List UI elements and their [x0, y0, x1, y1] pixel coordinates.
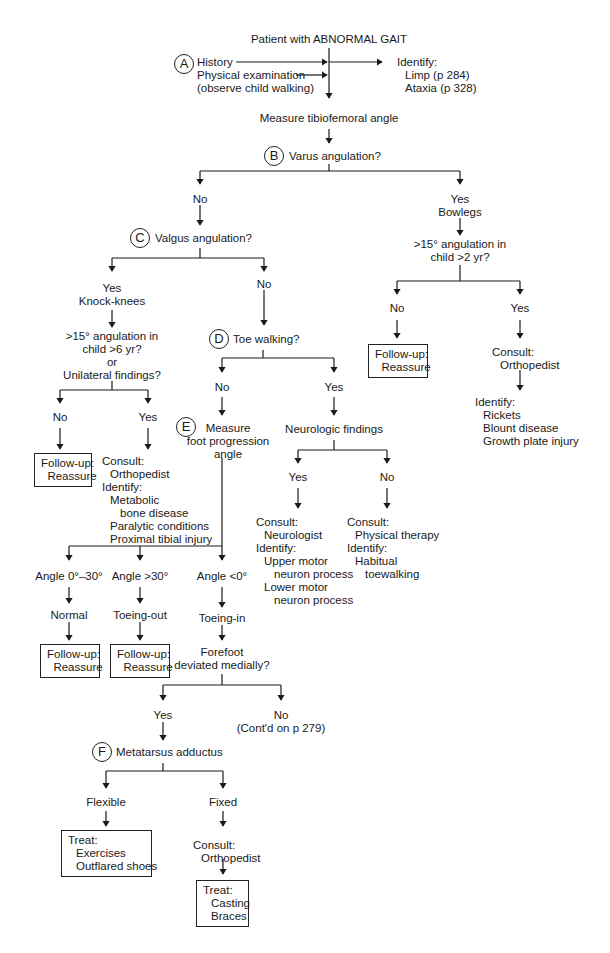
toe-walking-yes: Yes	[314, 381, 354, 394]
neuro-no-consult: Consult:Physical therapyIdentify:Habitua…	[347, 516, 439, 581]
step-a-text: HistoryPhysical examination(observe chil…	[197, 56, 314, 95]
neuro-yes: Yes	[278, 471, 318, 484]
measure-tibiofemoral-angle: Measure tibiofemoral angle	[229, 112, 429, 125]
angle-over-30: Angle >30°	[105, 570, 175, 583]
result-toeing-out: Toeing-out	[100, 609, 180, 622]
valgus-no: No	[244, 278, 284, 291]
identify-gait-causes: Identify:Limp (p 284)Ataxia (p 328)	[397, 56, 477, 95]
toe-walking-question: Toe walking?	[233, 333, 299, 346]
angle-under-0: Angle <0°	[187, 570, 257, 583]
step-marker-a: A	[174, 54, 194, 74]
toe-walking-no: No	[202, 381, 242, 394]
knock-knees-yes: Yes	[128, 411, 168, 424]
bowlegs-followup-box: Follow-up: Reassure	[368, 344, 428, 378]
bowlegs-identify: Identify:RicketsBlount diseaseGrowth pla…	[475, 396, 579, 448]
flowchart-title: Patient with ABNORMAL GAIT	[229, 33, 429, 46]
forefoot-yes: Yes	[143, 709, 183, 722]
bowlegs-no: No	[377, 302, 417, 315]
varus-question: Varus angulation?	[289, 150, 381, 163]
bowlegs-yes: Yes	[500, 302, 540, 315]
fixed-label: Fixed	[198, 796, 248, 809]
step-marker-d: D	[209, 329, 229, 349]
knock-knees-no: No	[40, 411, 80, 424]
varus-yes-bowlegs: YesBowlegs	[420, 193, 500, 219]
angle-0-30: Angle 0°–30°	[29, 570, 109, 583]
fixed-consult: Consult:Orthopedist	[193, 839, 260, 865]
neurologic-findings: Neurologic findings	[274, 423, 394, 436]
metatarsus-adductus: Metatarsus adductus	[116, 746, 223, 759]
neuro-yes-consult: Consult:NeurologistIdentify:Upper motorn…	[256, 516, 353, 607]
valgus-yes-knock-knees: YesKnock-knees	[67, 282, 157, 308]
flexible-label: Flexible	[76, 796, 136, 809]
step-marker-f: F	[92, 742, 112, 762]
bowlegs-question: >15° angulation inchild >2 yr?	[400, 238, 520, 264]
knock-knees-consult: Consult:OrthopedistIdentify:Metabolicbon…	[102, 455, 212, 546]
step-marker-c: C	[130, 228, 150, 248]
bowlegs-consult: Consult:Orthopedist	[492, 346, 559, 372]
varus-no: No	[180, 193, 220, 206]
knock-knees-followup-box: Follow-up: Reassure	[34, 453, 92, 487]
neuro-no: No	[367, 471, 407, 484]
forefoot-question: Forefootdeviated medially?	[172, 646, 272, 672]
measure-foot-progression: Measurefoot progressionangle	[180, 422, 276, 461]
result-normal: Normal	[29, 609, 109, 622]
flexible-treat-box: Treat:ExercisesOutflared shoes	[61, 830, 152, 877]
toeing-out-followup-box: Follow-up: Reassure	[110, 644, 170, 678]
valgus-question: Valgus angulation?	[155, 232, 252, 245]
knock-knees-question: >15° angulation inchild >6 yr?orUnilater…	[52, 330, 172, 382]
normal-followup-box: Follow-up: Reassure	[40, 644, 100, 678]
step-marker-b: B	[264, 146, 284, 166]
result-toeing-in: Toeing-in	[182, 612, 262, 625]
forefoot-no: No(Cont'd on p 279)	[231, 709, 331, 735]
fixed-treat-box: Treat:CastingBraces	[196, 880, 249, 927]
